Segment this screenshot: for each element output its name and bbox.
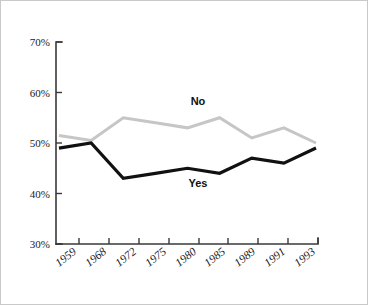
x-tick-marks [79,238,318,244]
x-tick-label-1959: 1959 [53,245,79,269]
y-tick-label-70: 70% [30,36,50,48]
x-tick-label-1985: 1985 [202,245,228,269]
series-annotation-yes: Yes [189,177,208,189]
x-tick-label-1968: 1968 [83,245,109,269]
chart-figure: 70% 60% 50% 40% 30% 1959 1968 1972 1975 … [0,0,368,305]
x-tick-label-1980: 1980 [173,245,199,269]
y-tick-label-60: 60% [30,87,50,99]
y-tick-label-40: 40% [30,188,50,200]
series-annotation-no: No [191,95,206,107]
series-line-yes [59,143,316,178]
x-axis [56,238,318,244]
x-tick-label-1991: 1991 [262,245,288,269]
y-tick-label-30: 30% [30,238,50,250]
series-line-no [59,118,316,143]
x-tick-label-1993: 1993 [292,245,318,269]
line-chart: 70% 60% 50% 40% 30% 1959 1968 1972 1975 … [1,1,368,305]
x-tick-label-1989: 1989 [232,245,258,269]
y-tick-marks [56,42,62,244]
y-tick-label-50: 50% [30,137,50,149]
x-tick-label-1975: 1975 [143,245,169,269]
x-tick-label-1972: 1972 [113,245,139,269]
